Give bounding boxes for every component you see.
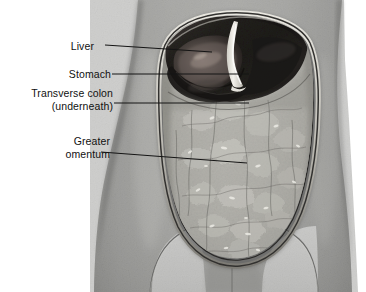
label-greater-omentum-line-2: omentum: [66, 148, 110, 161]
label-stomach: Stomach: [69, 68, 111, 81]
label-liver: Liver: [71, 40, 94, 53]
label-transverse-colon: Transverse colon (underneath): [31, 87, 113, 112]
abdominal-anatomy-figure: [0, 0, 366, 292]
label-greater-omentum-line-1: Greater: [66, 135, 110, 148]
label-greater-omentum: Greater omentum: [66, 135, 110, 160]
label-stomach-line-1: Stomach: [69, 68, 111, 81]
label-transverse-colon-line-2: (underneath): [31, 100, 113, 113]
label-liver-line-1: Liver: [71, 40, 94, 53]
label-transverse-colon-line-1: Transverse colon: [31, 87, 113, 100]
